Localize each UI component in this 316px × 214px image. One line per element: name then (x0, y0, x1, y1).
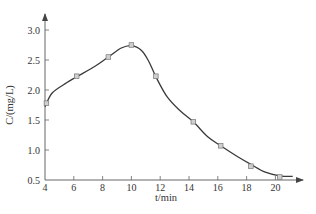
data-point-marker (249, 164, 254, 169)
y-axis: 0.51.01.52.02.53.0 C/(mg/L) (4, 14, 49, 186)
data-point-marker (129, 43, 134, 48)
x-tick-label: 8 (100, 182, 105, 193)
y-tick-label: 2.0 (28, 85, 41, 96)
data-point-marker (218, 144, 223, 149)
data-point-marker (277, 175, 282, 180)
data-point-marker (44, 101, 49, 106)
y-tick-label: 1.0 (28, 145, 41, 156)
data-point-marker (106, 55, 111, 60)
data-point-marker (191, 120, 196, 125)
y-tick-label: 2.5 (28, 55, 41, 66)
x-tick-label: 20 (270, 182, 280, 193)
x-tick-label: 18 (242, 182, 252, 193)
y-tick-label: 0.5 (28, 175, 41, 186)
concentration-time-chart: 0.51.01.52.02.53.0 C/(mg/L) 468101214161… (0, 0, 316, 214)
data-point-marker (74, 74, 79, 79)
x-tick-label: 4 (43, 182, 48, 193)
x-tick-label: 16 (213, 182, 223, 193)
x-tick-label: 6 (71, 182, 76, 193)
data-points (44, 43, 282, 180)
data-point-marker (154, 74, 159, 79)
x-axis: 468101214161820 t/min (43, 176, 304, 203)
x-tick-label: 10 (126, 182, 136, 193)
y-axis-label: C/(mg/L) (4, 85, 16, 125)
fitted-curve (45, 46, 293, 177)
x-tick-label: 14 (184, 182, 194, 193)
y-tick-label: 1.5 (28, 115, 41, 126)
x-axis-ticks: 468101214161820 (43, 176, 281, 193)
y-tick-label: 3.0 (28, 25, 41, 36)
x-axis-label: t/min (155, 192, 178, 203)
